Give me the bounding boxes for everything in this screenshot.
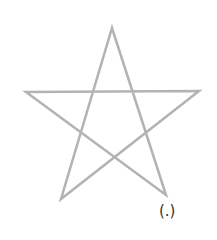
pentagram-diagram <box>0 0 217 240</box>
pentagram-star-shape <box>26 28 199 199</box>
point-label: (.) <box>159 202 175 220</box>
